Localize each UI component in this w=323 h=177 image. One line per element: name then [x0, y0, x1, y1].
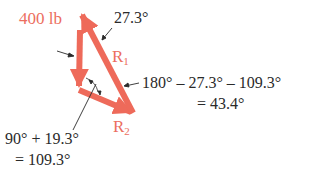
label-angle-right-2: = 43.4° [197, 95, 244, 113]
label-r1-sub: 1 [123, 55, 129, 67]
label-r1-main: R [112, 47, 123, 66]
label-r2-sub: 2 [124, 125, 130, 137]
label-400lb: 400 lb [19, 9, 62, 29]
label-r2: R2 [113, 117, 130, 137]
label-angle-bottom-1: 90° + 19.3° [5, 130, 79, 148]
label-r1: R1 [112, 47, 129, 67]
angle-arc-bottom [86, 78, 98, 92]
label-angle-top: 27.3° [114, 9, 148, 27]
label-angle-bottom-2: = 109.3° [15, 151, 70, 169]
label-r2-main: R [113, 117, 124, 136]
label-angle-right-1: 180° – 27.3° – 109.3° [142, 74, 281, 92]
vector-400lb [79, 30, 80, 86]
